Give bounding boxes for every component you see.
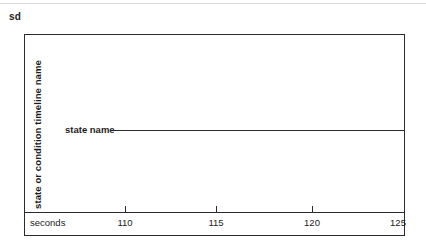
axis-tick	[125, 206, 126, 213]
axis-tick-label: 125	[390, 217, 406, 229]
axis-tick	[312, 206, 313, 213]
x-axis-name-label: seconds	[30, 217, 65, 229]
timing-diagram-frame: state or condition timeline name state n…	[24, 34, 405, 236]
state-lifeline-row: state name	[25, 123, 405, 137]
time-axis-line	[25, 212, 404, 213]
axis-tick	[216, 206, 217, 213]
frame-keyword-label: sd	[9, 11, 21, 22]
top-divider	[0, 3, 426, 4]
state-lifeline-line	[114, 130, 404, 131]
axis-tick-label: 115	[208, 217, 223, 229]
state-name-label: state name	[65, 123, 115, 137]
axis-tick-label: 110	[117, 217, 132, 229]
axis-tick-label: 120	[304, 217, 320, 229]
